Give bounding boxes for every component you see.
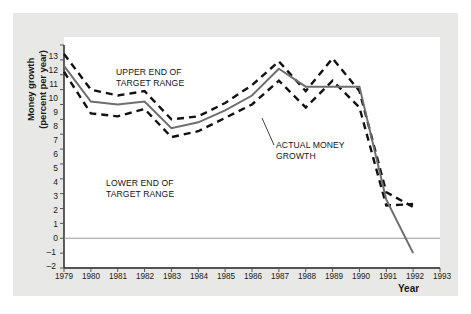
- series-upper-target-range: [64, 54, 413, 207]
- annotation-leader-line: [262, 118, 274, 145]
- series-actual-money-growth: [64, 66, 413, 253]
- figure-root: Money growth (percent per year) Year 13 …: [0, 0, 471, 314]
- chart-svg: [0, 0, 471, 314]
